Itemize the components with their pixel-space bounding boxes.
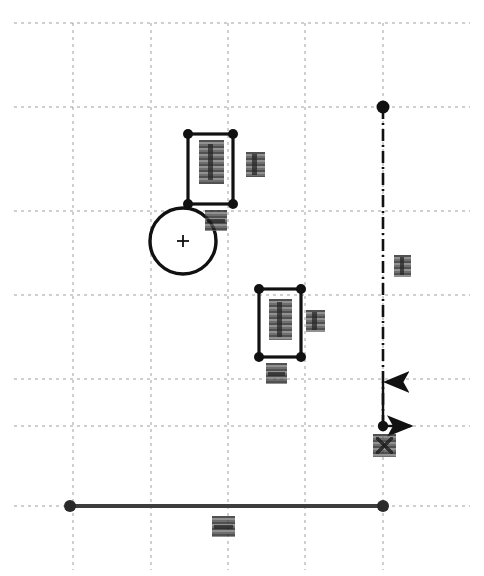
baseline-node-right[interactable] (377, 500, 389, 512)
label-rectangle-upper-dim (199, 140, 224, 184)
baseline-horizontal[interactable] (64, 500, 389, 512)
sketch-vector-layer[interactable] (0, 0, 484, 576)
centerline-top-node[interactable] (377, 101, 390, 114)
origin-node[interactable] (378, 421, 388, 431)
rectangle-upper-node-tl[interactable] (183, 129, 193, 139)
label-rectangle-upper-side (246, 152, 265, 177)
label-rectangle-lower-side (306, 310, 325, 332)
label-rectangle-lower-below (266, 363, 287, 384)
rectangle-lower-node-tr[interactable] (296, 284, 306, 294)
rectangle-upper-node-br[interactable] (228, 199, 238, 209)
label-rectangle-lower-dim (269, 299, 292, 340)
rectangle-lower-node-tl[interactable] (254, 284, 264, 294)
grid-layer (14, 23, 470, 570)
sketch-canvas[interactable]: Engineering sketch — plan view with cent… (0, 0, 484, 576)
rectangle-upper-node-tr[interactable] (228, 129, 238, 139)
origin-datum[interactable] (378, 382, 411, 431)
baseline-node-left[interactable] (64, 500, 76, 512)
label-origin-datum (373, 434, 396, 457)
label-baseline-dim (212, 516, 235, 537)
rectangle-lower-node-br[interactable] (296, 352, 306, 362)
label-centerline-right (394, 255, 411, 277)
label-circle-datum (205, 210, 227, 231)
rectangle-lower-node-bl[interactable] (254, 352, 264, 362)
